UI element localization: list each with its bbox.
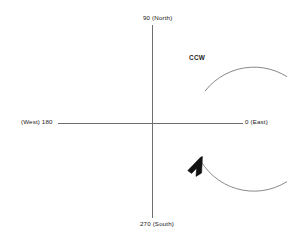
label-ccw-rotation: CCW <box>189 55 205 61</box>
label-west: (West) 180 <box>21 119 53 125</box>
rotation-arc <box>201 67 287 191</box>
ccw-arrowhead-icon <box>188 157 203 177</box>
figure-canvas: 90 (North) 270 (South) (West) 180 0 (Eas… <box>0 0 287 241</box>
label-north: 90 (North) <box>143 15 172 21</box>
label-south: 270 (South) <box>140 221 174 227</box>
label-east: 0 (East) <box>245 119 268 125</box>
